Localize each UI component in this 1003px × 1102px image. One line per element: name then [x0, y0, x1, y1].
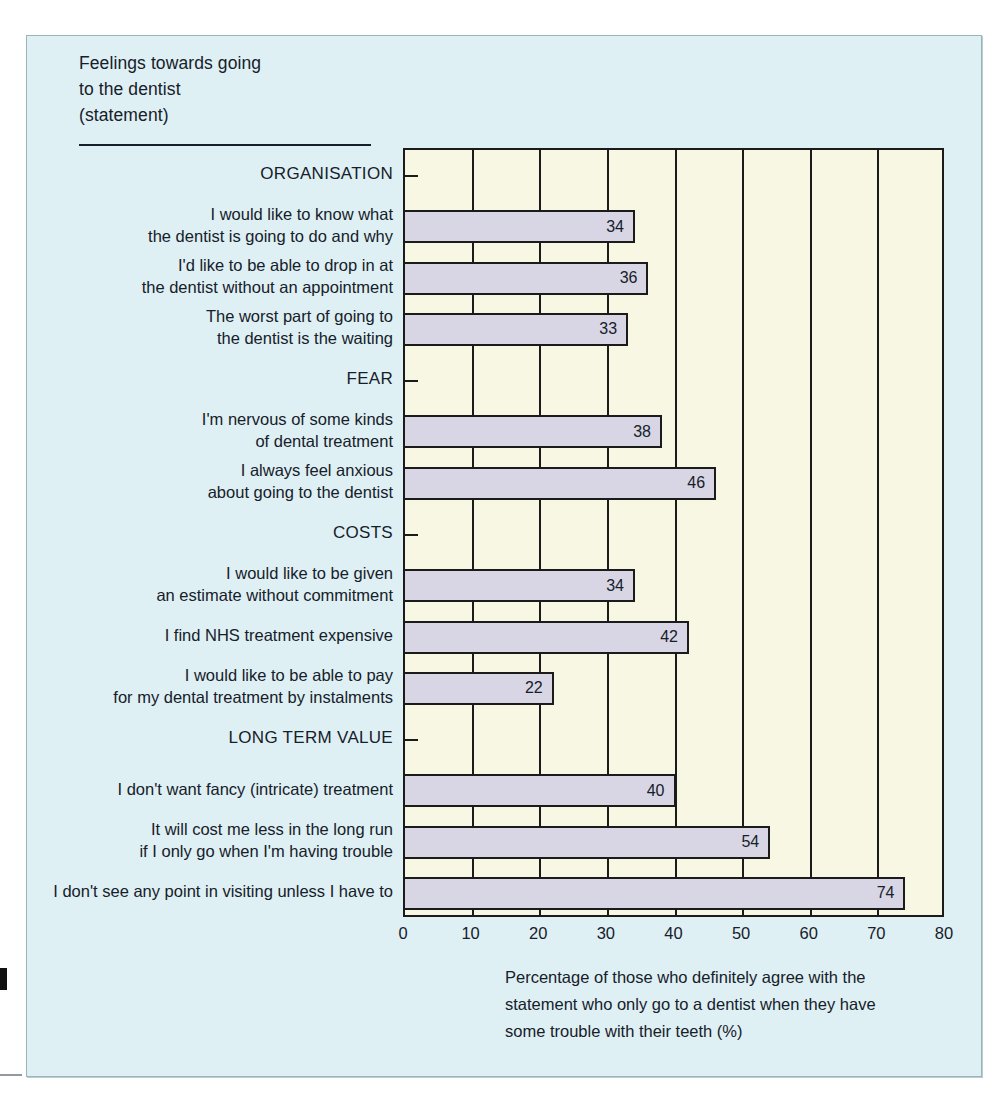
plot-area: 3436333846344222405474 — [403, 148, 944, 917]
bar: 46 — [403, 467, 716, 500]
bar-value-label: 38 — [633, 423, 651, 441]
category-label: I always feel anxious about going to the… — [27, 459, 403, 503]
x-axis-ticks: 01020304050607080 — [403, 924, 944, 950]
bar-row: 34 — [405, 210, 942, 243]
bar: 34 — [403, 569, 635, 602]
group-tick-mark — [405, 380, 418, 382]
x-tick-label-20: 20 — [529, 924, 547, 943]
category-label: I don't want fancy (intricate) treatment — [27, 778, 403, 800]
x-tick-label-30: 30 — [597, 924, 615, 943]
category-label: I don't see any point in visiting unless… — [27, 880, 403, 902]
bar-value-label: 36 — [620, 269, 638, 287]
bar-value-label: 34 — [606, 218, 624, 236]
bar-row: 36 — [405, 262, 942, 295]
bar-value-label: 40 — [647, 782, 665, 800]
bar: 42 — [403, 621, 689, 654]
bar-value-label: 42 — [660, 628, 678, 646]
group-label: LONG TERM VALUE — [27, 727, 403, 749]
bar-row: 22 — [405, 672, 942, 705]
bar: 38 — [403, 415, 662, 448]
bar-row: 46 — [405, 467, 942, 500]
bar-value-label: 74 — [877, 884, 895, 902]
x-tick-label-0: 0 — [398, 924, 407, 943]
group-label: COSTS — [27, 522, 403, 544]
group-tick-mark — [405, 739, 418, 741]
bar: 22 — [403, 672, 554, 705]
bar: 36 — [403, 262, 648, 295]
bar-value-label: 34 — [606, 577, 624, 595]
bar-value-label: 22 — [525, 679, 543, 697]
bar-row: 54 — [405, 826, 942, 859]
bar: 74 — [403, 877, 905, 910]
x-tick-label-50: 50 — [732, 924, 750, 943]
bar-chart: ORGANISATIONI would like to know what th… — [27, 36, 983, 1078]
bar: 54 — [403, 826, 770, 859]
category-label: I'm nervous of some kinds of dental trea… — [27, 408, 403, 452]
bar-value-label: 33 — [599, 320, 617, 338]
x-tick-label-80: 80 — [935, 924, 953, 943]
x-tick-label-70: 70 — [867, 924, 885, 943]
page-edge-mark-lower — [0, 1074, 22, 1076]
bar-row: 34 — [405, 569, 942, 602]
group-tick-mark — [405, 175, 418, 177]
category-label: I'd like to be able to drop in at the de… — [27, 254, 403, 298]
chart-panel: Feelings towards going to the dentist (s… — [26, 35, 982, 1077]
page-root: Feelings towards going to the dentist (s… — [0, 0, 1003, 1102]
bar-row: 42 — [405, 621, 942, 654]
bar: 34 — [403, 210, 635, 243]
bar: 33 — [403, 313, 628, 346]
category-label: I would like to be able to pay for my de… — [27, 664, 403, 708]
bar-row: 38 — [405, 415, 942, 448]
bar-row: 74 — [405, 877, 942, 910]
caption-line-1: Percentage of those who definitely agree… — [505, 964, 935, 991]
x-tick-label-60: 60 — [800, 924, 818, 943]
category-label: It will cost me less in the long run if … — [27, 818, 403, 862]
category-label: The worst part of going to the dentist i… — [27, 305, 403, 349]
x-axis-caption: Percentage of those who definitely agree… — [505, 964, 935, 1045]
bar-row: 33 — [405, 313, 942, 346]
x-tick-label-40: 40 — [664, 924, 682, 943]
group-label: FEAR — [27, 368, 403, 390]
group-tick-mark — [405, 534, 418, 536]
category-label: I find NHS treatment expensive — [27, 624, 403, 646]
category-label: I would like to be given an estimate wit… — [27, 562, 403, 606]
group-label: ORGANISATION — [27, 163, 403, 185]
x-tick-label-10: 10 — [461, 924, 479, 943]
bar-row: 40 — [405, 774, 942, 807]
caption-line-3: some trouble with their teeth (%) — [505, 1018, 935, 1045]
bar: 40 — [403, 774, 676, 807]
bar-value-label: 46 — [687, 474, 705, 492]
page-edge-mark-upper — [0, 968, 7, 990]
bar-value-label: 54 — [741, 833, 759, 851]
caption-line-2: statement who only go to a dentist when … — [505, 991, 935, 1018]
category-label: I would like to know what the dentist is… — [27, 203, 403, 247]
